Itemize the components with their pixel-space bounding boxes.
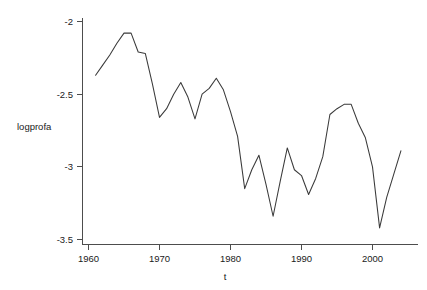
y-tick-label: -2.5 (57, 89, 73, 100)
y-tick-label: -3.5 (57, 234, 73, 245)
chart-container: -2 -2.5 -3 -3.5 1960 1970 1980 1990 2000… (0, 0, 427, 290)
x-tick-label: 1960 (78, 253, 99, 264)
x-tick-label: 2000 (362, 253, 383, 264)
y-axis-ticks (77, 22, 83, 240)
x-tick-label: 1990 (291, 253, 312, 264)
data-series-line (96, 33, 401, 228)
x-tick-label: 1980 (220, 253, 241, 264)
y-axis-tick-labels: -2 -2.5 -3 -3.5 (57, 16, 73, 245)
y-tick-label: -2 (65, 16, 73, 27)
x-axis-ticks (89, 245, 373, 251)
line-chart-plot: -2 -2.5 -3 -3.5 1960 1970 1980 1990 2000… (0, 0, 427, 290)
x-tick-label: 1970 (149, 253, 170, 264)
y-tick-label: -3 (65, 161, 73, 172)
y-axis-title: logprofa (17, 121, 52, 132)
x-axis-tick-labels: 1960 1970 1980 1990 2000 (78, 253, 383, 264)
x-axis-title: t (224, 271, 227, 282)
